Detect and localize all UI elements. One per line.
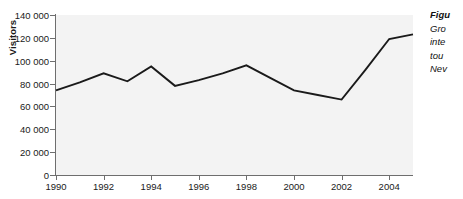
x-tick-label: 1992 <box>93 181 114 192</box>
y-tick-mark <box>50 129 55 130</box>
x-tick-mark <box>104 176 105 180</box>
x-tick-label: 1990 <box>45 181 66 192</box>
x-tick-mark <box>342 176 343 180</box>
y-tick-mark <box>50 152 55 153</box>
y-tick-label: 120 000 <box>15 32 49 43</box>
figure-container: Visitors 020 00040 00060 00080 000100 00… <box>0 0 463 199</box>
figure-caption-title: Figu <box>430 8 463 22</box>
y-tick-mark <box>50 61 55 62</box>
figure-caption-line-4: Nev <box>430 62 463 76</box>
plot-area <box>56 15 413 175</box>
x-axis-line <box>55 175 413 176</box>
y-tick-label: 140 000 <box>15 10 49 21</box>
y-tick-mark <box>50 106 55 107</box>
x-tick-mark <box>389 176 390 180</box>
y-tick-label: 80 000 <box>20 78 49 89</box>
y-axis-line <box>55 14 56 176</box>
y-tick-mark <box>50 38 55 39</box>
y-tick-label: 60 000 <box>20 101 49 112</box>
x-tick-label: 1996 <box>188 181 209 192</box>
x-tick-label: 1998 <box>236 181 257 192</box>
y-tick-label: 40 000 <box>20 124 49 135</box>
x-tick-label: 2004 <box>379 181 400 192</box>
figure-caption-line-1: Gro <box>430 22 463 36</box>
figure-caption-line-3: tou <box>430 49 463 63</box>
y-tick-label: 20 000 <box>20 147 49 158</box>
y-tick-mark <box>50 15 55 16</box>
figure-caption-line-2: inte <box>430 35 463 49</box>
y-tick-label: 100 000 <box>15 55 49 66</box>
x-tick-mark <box>199 176 200 180</box>
x-tick-label: 2000 <box>283 181 304 192</box>
y-tick-mark <box>50 84 55 85</box>
x-tick-mark <box>294 176 295 180</box>
y-tick-label: 0 <box>44 170 49 181</box>
figure-caption: Figu Gro inte tou Nev <box>430 8 463 76</box>
x-tick-mark <box>151 176 152 180</box>
y-tick-mark <box>50 175 55 176</box>
x-tick-mark <box>246 176 247 180</box>
x-tick-mark <box>56 176 57 180</box>
x-tick-label: 2002 <box>331 181 352 192</box>
x-tick-label: 1994 <box>141 181 162 192</box>
